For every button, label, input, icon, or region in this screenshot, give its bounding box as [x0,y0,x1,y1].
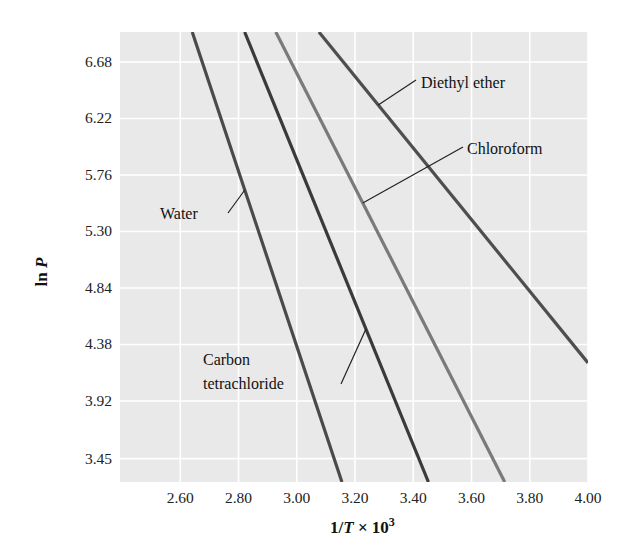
y-tick-label: 4.38 [85,335,112,352]
label-carbon-tetrachloride-line2: tetrachloride [203,375,284,392]
y-tick-label: 5.76 [85,166,112,183]
label-diethyl-ether: Diethyl ether [421,74,506,92]
y-tick-label: 3.92 [85,392,112,409]
x-tick-label: 3.40 [400,489,427,506]
y-tick-label: 3.45 [85,450,112,467]
label-water: Water [160,205,198,222]
x-axis-ticks: 2.602.803.003.203.403.603.804.00 [167,489,602,506]
y-tick-label: 5.30 [85,222,112,239]
x-tick-label: 4.00 [574,489,601,506]
x-tick-label: 2.80 [225,489,252,506]
x-tick-label: 3.80 [516,489,543,506]
plot-area [120,32,588,482]
x-axis-title: 1/T × 103 [330,515,395,537]
x-tick-label: 3.00 [283,489,310,506]
y-axis-title: ln P [32,257,51,286]
label-chloroform: Chloroform [467,140,543,157]
y-tick-label: 6.22 [85,109,112,126]
vapor-pressure-chart: 3.453.924.384.845.305.766.226.68 2.602.8… [0,0,631,553]
x-tick-label: 3.20 [341,489,368,506]
x-tick-label: 2.60 [167,489,194,506]
label-carbon-tetrachloride-line1: Carbon [203,351,250,368]
x-tick-label: 3.60 [458,489,485,506]
y-axis-ticks: 3.453.924.384.845.305.766.226.68 [85,53,112,467]
y-tick-label: 4.84 [85,279,112,296]
y-tick-label: 6.68 [85,53,112,70]
